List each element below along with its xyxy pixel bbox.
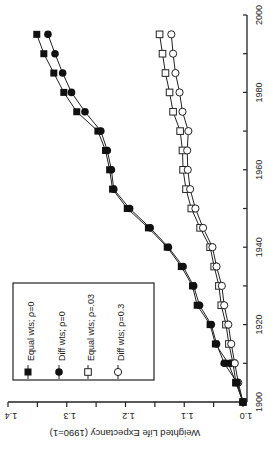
y-tick-label: 1.1 bbox=[181, 411, 194, 421]
legend-marker bbox=[85, 369, 92, 376]
data-point bbox=[207, 321, 215, 329]
data-point bbox=[221, 302, 228, 309]
data-point bbox=[213, 340, 221, 348]
y-axis-label: Weighted Life Expectancy (1990=1) bbox=[50, 428, 201, 439]
data-point bbox=[165, 243, 173, 251]
data-point bbox=[228, 340, 235, 347]
x-tick-label: 1940 bbox=[254, 237, 264, 257]
data-point bbox=[81, 108, 89, 116]
data-point bbox=[110, 185, 118, 193]
data-point bbox=[209, 244, 216, 251]
data-point bbox=[170, 108, 177, 115]
data-point bbox=[168, 31, 175, 38]
y-tick-label: 1.3 bbox=[63, 411, 76, 421]
data-point bbox=[169, 50, 176, 57]
data-point bbox=[97, 127, 105, 135]
data-point bbox=[59, 69, 67, 77]
legend-marker bbox=[55, 368, 63, 376]
data-point bbox=[159, 50, 166, 57]
legend-marker bbox=[114, 368, 121, 375]
data-point bbox=[184, 147, 191, 154]
legend-label: Equal wts; ρ=0 bbox=[26, 302, 36, 361]
data-point bbox=[73, 108, 80, 115]
data-point bbox=[179, 108, 186, 115]
data-point bbox=[162, 70, 169, 77]
data-point bbox=[33, 31, 40, 38]
legend-label: Diff wts; ρ=0 bbox=[57, 311, 67, 361]
data-point bbox=[225, 321, 232, 328]
y-tick-label: 1.2 bbox=[122, 411, 135, 421]
data-point bbox=[239, 398, 247, 406]
series-open-circle bbox=[168, 31, 247, 406]
chart: 1900192019401960198020001.01.11.21.31.4 … bbox=[0, 0, 274, 455]
x-tick-label: 1960 bbox=[254, 160, 264, 180]
data-point bbox=[68, 89, 76, 97]
data-point bbox=[220, 360, 228, 368]
series-open-square bbox=[156, 31, 246, 405]
data-point bbox=[51, 50, 59, 58]
data-point bbox=[192, 205, 199, 212]
data-point bbox=[40, 50, 47, 57]
data-point bbox=[199, 224, 206, 231]
data-point bbox=[187, 186, 194, 193]
data-point bbox=[190, 282, 198, 290]
data-point bbox=[166, 89, 173, 96]
x-tick-label: 1920 bbox=[254, 315, 264, 335]
data-point bbox=[44, 31, 52, 39]
data-point bbox=[231, 360, 238, 367]
y-tick-label: 1.0 bbox=[240, 411, 253, 421]
data-point bbox=[176, 89, 183, 96]
data-point bbox=[172, 69, 179, 76]
data-point bbox=[146, 224, 154, 232]
data-point bbox=[50, 70, 57, 77]
data-point bbox=[60, 89, 67, 96]
legend-label: Diff wts; ρ=0.3 bbox=[116, 304, 126, 361]
data-point bbox=[156, 31, 163, 38]
data-point bbox=[196, 301, 204, 309]
x-tick-label: 1900 bbox=[254, 392, 264, 412]
data-point bbox=[108, 166, 116, 174]
data-point bbox=[218, 282, 225, 289]
data-point bbox=[177, 128, 184, 135]
x-tick-label: 1980 bbox=[254, 82, 264, 102]
legend-label: Equal wts; ρ=.03 bbox=[86, 294, 96, 361]
x-tick-label: 2000 bbox=[254, 5, 264, 25]
data-point bbox=[233, 379, 241, 387]
data-point bbox=[103, 147, 111, 155]
data-point bbox=[126, 205, 134, 213]
y-tick-label: 1.4 bbox=[5, 411, 18, 421]
data-point bbox=[179, 263, 187, 271]
legend: Equal wts; ρ=0Diff wts; ρ=0Equal wts; ρ=… bbox=[13, 283, 154, 380]
data-point bbox=[184, 166, 191, 173]
data-point bbox=[185, 128, 192, 135]
data-point bbox=[213, 263, 220, 270]
legend-marker bbox=[25, 369, 32, 376]
